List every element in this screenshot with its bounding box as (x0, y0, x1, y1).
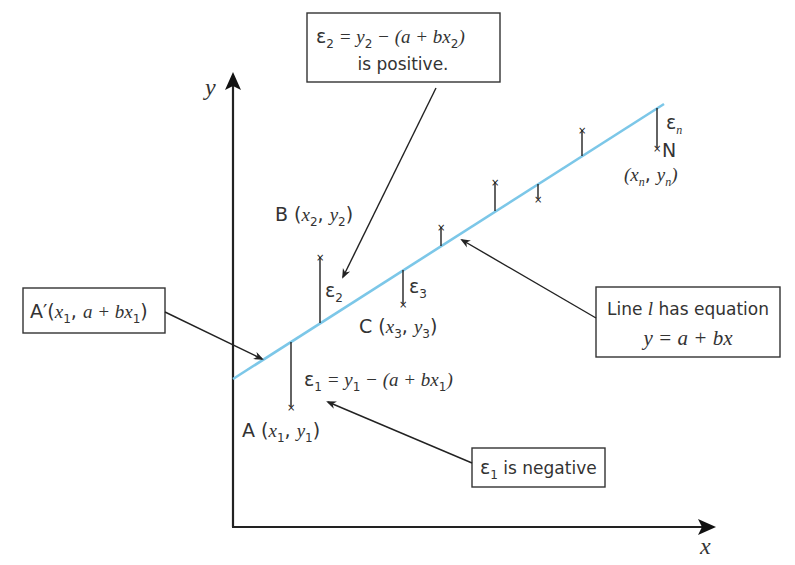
y-axis-label: y (203, 74, 216, 100)
callout-line-arrow (462, 240, 596, 318)
callout-line-title: Line l has equation (607, 298, 769, 319)
residual-formula-a: ε1 = y1 − (a + bx1) (304, 368, 453, 394)
callout-a-prime: A′(x1, a + bx1) (23, 288, 262, 359)
residual-label-c: ε3 (409, 275, 427, 301)
point-marker-a: × (287, 402, 295, 413)
callout-eps2-text: is positive. (357, 54, 448, 74)
residual-label-n: εn (666, 111, 682, 137)
point-marker-7: × (578, 125, 586, 136)
point-label-n: (xn, yn) (624, 163, 678, 189)
callout-line-equation-text: y = a + bx (642, 326, 734, 350)
callout-eps2-arrow (343, 88, 436, 277)
x-axis-label: x (699, 533, 711, 559)
point-marker-6: × (534, 194, 542, 205)
point-label-b: B (x2, y2) (275, 203, 353, 229)
point-marker-b: × (316, 252, 324, 263)
callout-eps2-positive: ε2 = y2 − (a + bx2) is positive. (307, 13, 500, 277)
residuals: × × × × × × × × (287, 108, 661, 413)
point-marker-c: × (399, 299, 407, 310)
point-label-c: C (x3, y3) (359, 315, 437, 341)
callout-line-equation: Line l has equation y = a + bx (462, 240, 780, 357)
callout-eps1-negative: ε1 is negative (328, 402, 605, 487)
point-marker-n: × (653, 143, 661, 154)
point-marker-4: × (437, 222, 445, 233)
regression-residuals-diagram: y x × × × × × × × × B (x2, y2) ε2 (0, 0, 795, 565)
callout-eps1-arrow (328, 402, 472, 463)
point-label-a: A (x1, y1) (242, 419, 320, 445)
callout-a-prime-arrow (165, 312, 262, 359)
residual-label-b: ε2 (325, 279, 343, 305)
point-labels: B (x2, y2) ε2 ε3 C (x3, y3) ε1 = y1 − (a… (242, 111, 682, 445)
point-marker-5: × (491, 177, 499, 188)
point-letter-n: N (662, 139, 676, 161)
